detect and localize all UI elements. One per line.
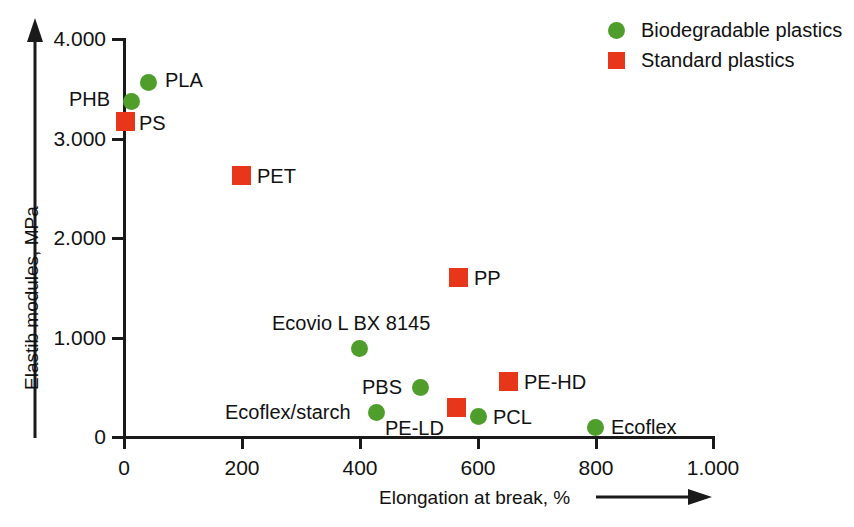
data-point-ecoflex-starch[interactable] <box>368 404 385 421</box>
data-label-ecovio: Ecovio L BX 8145 <box>272 313 430 333</box>
data-point-pp[interactable] <box>449 268 468 287</box>
y-tick-4000 <box>112 38 124 41</box>
data-label-pcl: PCL <box>493 407 532 427</box>
x-tick-800 <box>595 436 598 449</box>
x-axis-title: Elongation at break, % <box>379 488 570 507</box>
legend-item-biodegradable[interactable]: Biodegradable plastics <box>608 20 842 40</box>
data-point-ecovio[interactable] <box>351 340 368 357</box>
data-point-pe-hd[interactable] <box>499 372 518 391</box>
data-label-phb: PHB <box>69 89 110 109</box>
data-label-pbs: PBS <box>362 377 402 397</box>
data-point-phb[interactable] <box>123 93 140 110</box>
data-label-pet: PET <box>257 166 296 186</box>
y-tick-label-3000: 3.000 <box>10 128 106 149</box>
legend-item-standard[interactable]: Standard plastics <box>608 50 842 70</box>
x-tick-label-400: 400 <box>320 457 400 478</box>
data-label-ecoflex: Ecoflex <box>611 417 677 437</box>
y-tick-1000 <box>112 337 124 340</box>
chart-legend: Biodegradable plastics Standard plastics <box>608 20 842 80</box>
data-label-pp: PP <box>474 268 501 288</box>
legend-label-standard: Standard plastics <box>641 50 794 70</box>
legend-circle-marker-icon <box>608 22 625 39</box>
x-tick-0 <box>123 436 126 449</box>
x-axis-direction-arrow <box>596 488 716 506</box>
x-tick-label-0: 0 <box>84 457 164 478</box>
data-label-pla: PLA <box>165 70 203 90</box>
y-tick-label-4000: 4.000 <box>10 28 106 49</box>
data-label-ps: PS <box>139 113 166 133</box>
x-tick-label-600: 600 <box>438 457 518 478</box>
data-label-pe-hd: PE-HD <box>524 372 586 392</box>
data-point-pet[interactable] <box>232 166 251 185</box>
x-tick-1000 <box>712 436 715 449</box>
y-tick-2000 <box>112 237 124 240</box>
data-point-pbs[interactable] <box>412 379 429 396</box>
x-tick-label-800: 800 <box>556 457 636 478</box>
data-point-pcl[interactable] <box>470 408 487 425</box>
data-label-pe-ld: PE-LD <box>385 418 444 438</box>
data-point-pe-ld[interactable] <box>447 398 466 417</box>
data-label-ecoflex-starch: Ecoflex/starch <box>225 402 351 422</box>
x-tick-400 <box>359 436 362 449</box>
legend-label-biodegradable: Biodegradable plastics <box>641 20 842 40</box>
x-tick-label-200: 200 <box>202 457 282 478</box>
y-tick-label-0: 0 <box>10 426 106 447</box>
x-tick-200 <box>241 436 244 449</box>
legend-square-marker-icon <box>608 52 625 69</box>
data-point-ecoflex[interactable] <box>587 419 604 436</box>
x-tick-label-1000: 1.000 <box>673 457 753 478</box>
scatter-chart: 4.000 3.000 2.000 1.000 0 0 200 400 600 … <box>0 0 854 527</box>
y-tick-3000 <box>112 138 124 141</box>
data-point-ps[interactable] <box>116 112 135 131</box>
y-axis-title: Elastib modules, MPa <box>22 206 41 390</box>
data-point-pla[interactable] <box>140 74 157 91</box>
x-tick-600 <box>477 436 480 449</box>
